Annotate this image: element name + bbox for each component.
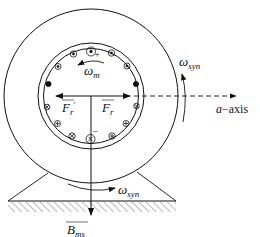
omega-syn-right-arrow: [182, 74, 185, 122]
diagram-graphics: [0, 0, 260, 237]
omega-syn-bottom-label: ωsyn: [118, 183, 139, 199]
plus-sign: +: [94, 50, 100, 59]
machine-diagram: + − ωm Fr' Fr ωsyn ωsyn a−axis Bms: [0, 0, 260, 237]
fr-label: Fr: [102, 101, 113, 117]
bms-label: Bms: [67, 223, 85, 237]
a-axis-label: a−axis: [216, 103, 248, 115]
fr-prime-label: Fr': [62, 101, 75, 117]
omega-m-label: ωm: [84, 64, 100, 80]
omega-syn-right-label: ωsyn: [179, 55, 200, 71]
minus-sign: −: [92, 127, 99, 137]
